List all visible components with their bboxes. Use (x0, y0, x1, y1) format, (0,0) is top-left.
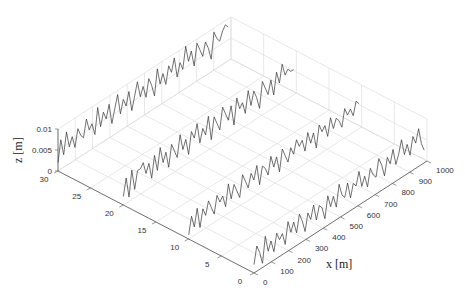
tick-labels: 0100200300400500600700800900100005101520… (32, 125, 454, 287)
profile-line (58, 25, 228, 163)
x-tick-label: 500 (350, 222, 364, 231)
y-tick-label: 15 (138, 226, 147, 235)
y-tick-label: 0 (238, 277, 243, 286)
x-tick-label: 300 (315, 244, 329, 253)
y-tick-label: 20 (105, 209, 114, 218)
x-tick-label: 1000 (436, 166, 454, 175)
profiles (58, 25, 424, 265)
y-tick (217, 256, 221, 258)
z-tick-label: 0.01 (36, 125, 52, 134)
z-tick-label: 0 (48, 167, 53, 176)
x-tick (410, 172, 414, 174)
y-tick-label: 5 (205, 260, 210, 269)
wall-gridline (231, 38, 427, 140)
y-tick-label: 30 (40, 175, 49, 184)
x-tick (392, 183, 396, 185)
3d-waterfall-plot: 0100200300400500600700800900100005101520… (0, 0, 465, 299)
floor-gridline (156, 110, 329, 222)
floor-gridline (91, 76, 264, 188)
x-tick (254, 273, 258, 275)
floor-gridline (189, 127, 362, 239)
x-tick (341, 217, 345, 219)
x-tick-label: 700 (384, 200, 398, 209)
z-tick-label: 0.005 (32, 146, 53, 155)
y-tick (152, 222, 156, 224)
y-tick-label: 25 (72, 192, 81, 201)
grid (58, 17, 427, 273)
y-tick (185, 239, 189, 241)
y-tick (250, 273, 254, 275)
y-tick (87, 188, 91, 190)
x-tick (358, 206, 362, 208)
x-tick (289, 251, 293, 253)
y-tick (119, 205, 123, 207)
x-tick-label: 900 (419, 177, 433, 186)
x-tick-label: 800 (401, 188, 415, 197)
x-tick-label: 0 (263, 278, 268, 287)
profile-line (254, 129, 424, 265)
x-axis-label: x [m] (326, 257, 352, 271)
x-tick (306, 239, 310, 241)
x-tick-label: 600 (367, 211, 381, 220)
x-tick-label: 100 (280, 267, 294, 276)
profile-line (123, 64, 293, 197)
axes (54, 129, 431, 275)
z-axis-label: z [m] (11, 137, 25, 163)
x-tick (375, 195, 379, 197)
floor-gridline (221, 144, 394, 256)
x-tick (323, 228, 327, 230)
x-tick-label: 400 (332, 233, 346, 242)
x-tick (271, 262, 275, 264)
floor-gridline (123, 93, 296, 205)
profile-line (189, 101, 359, 235)
x-tick-label: 200 (298, 256, 312, 265)
y-tick-label: 10 (170, 243, 179, 252)
x-tick (427, 161, 431, 163)
